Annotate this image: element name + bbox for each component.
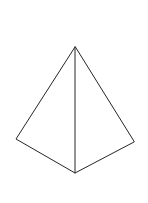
pyramid-wireframe-svg xyxy=(0,0,148,203)
figure-canvas xyxy=(0,0,148,203)
